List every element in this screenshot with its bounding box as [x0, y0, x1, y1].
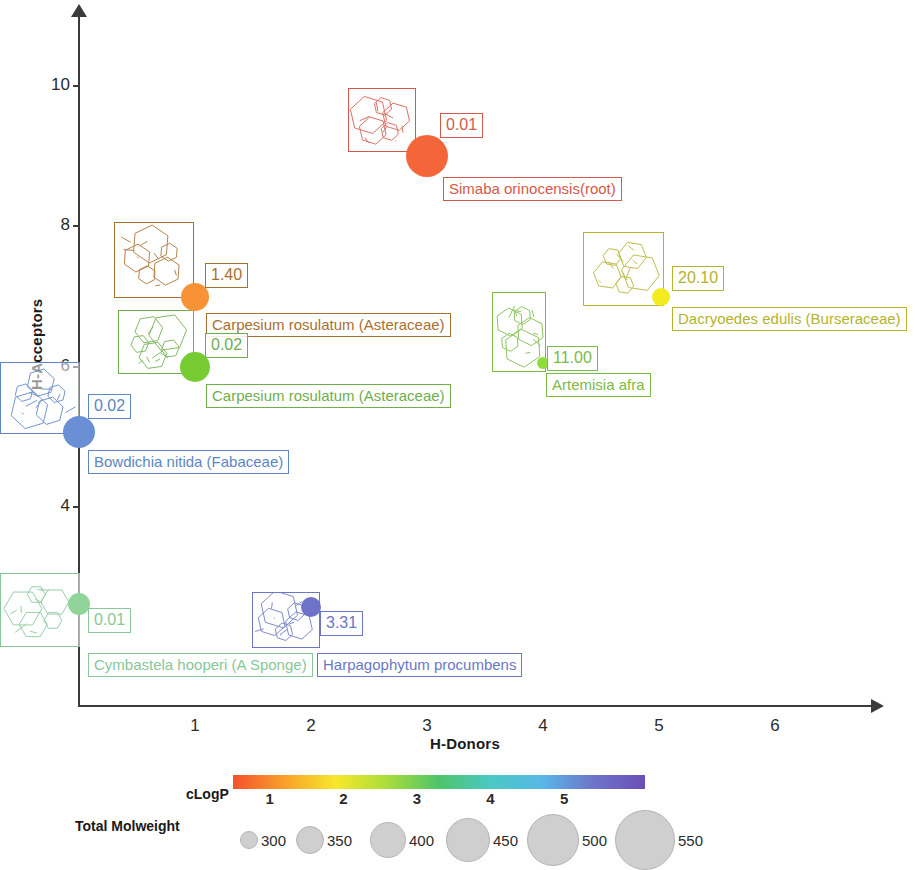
x-axis-title: H-Donors [430, 735, 500, 752]
point-name-label: Simaba orinocensis(root) [443, 177, 622, 201]
point-value-label: 1.40 [205, 263, 248, 288]
data-point-marker[interactable] [68, 593, 90, 615]
data-point-marker[interactable] [301, 597, 321, 617]
point-value-label: 3.31 [320, 611, 363, 636]
x-tick-label: 3 [407, 716, 447, 736]
y-tick-label: 8 [40, 215, 70, 235]
data-point-marker[interactable] [63, 416, 95, 448]
molecule-structure-thumbnail [348, 88, 416, 152]
size-legend-bubble [296, 826, 324, 854]
size-legend-label: 550 [678, 832, 703, 849]
y-tick-label: 4 [40, 496, 70, 516]
molecule-structure-thumbnail [114, 222, 194, 298]
y-axis-arrow [71, 4, 87, 17]
data-point-marker[interactable] [652, 288, 670, 306]
clogp-colorbar [233, 775, 645, 789]
x-axis-line [78, 705, 873, 707]
colorbar-tick-label: 5 [544, 790, 584, 807]
y-tick-label: 10 [40, 75, 70, 95]
size-legend-bubble [527, 814, 579, 866]
x-tick-label: 6 [755, 716, 795, 736]
size-legend-bubble [370, 822, 406, 858]
colorbar-tick-label: 3 [397, 790, 437, 807]
colorbar-tick-label: 4 [471, 790, 511, 807]
x-tick-label: 4 [523, 716, 563, 736]
size-legend-label: 350 [327, 832, 352, 849]
molecule-structure-thumbnail [0, 573, 80, 647]
x-tick-label: 1 [175, 716, 215, 736]
point-name-label: Harpagophytum procumbens [317, 653, 522, 677]
point-name-label: Artemisia afra [546, 373, 651, 397]
point-value-label: 0.01 [440, 113, 483, 138]
point-value-label: 20.10 [672, 266, 724, 291]
point-value-label: 0.02 [88, 394, 131, 419]
point-name-label: Carpesium rosulatum (Asteraceae) [206, 384, 451, 408]
colorbar-legend-title: cLogP [186, 786, 229, 802]
size-legend-label: 400 [409, 832, 434, 849]
y-tick-mark [73, 225, 79, 227]
point-name-label: Bowdichia nitida (Fabaceae) [88, 450, 289, 474]
data-point-marker[interactable] [406, 135, 448, 177]
y-tick-mark [73, 506, 79, 508]
size-legend-label: 300 [261, 832, 286, 849]
colorbar-tick-label: 2 [323, 790, 363, 807]
size-legend-bubble [240, 831, 258, 849]
point-name-label: Cymbastela hooperi (A Sponge) [88, 653, 313, 677]
point-value-label: 11.00 [547, 346, 598, 371]
point-value-label: 0.01 [88, 608, 131, 633]
x-tick-label: 2 [291, 716, 331, 736]
point-value-label: 0.02 [205, 333, 248, 358]
x-axis-arrow [871, 699, 884, 713]
size-legend-title: Total Molweight [75, 818, 180, 834]
size-legend-bubble [615, 810, 675, 870]
y-tick-mark [73, 85, 79, 87]
x-tick-label: 5 [639, 716, 679, 736]
colorbar-tick-label: 1 [250, 790, 290, 807]
size-legend-bubble [446, 818, 490, 862]
size-legend-label: 450 [493, 832, 518, 849]
size-legend-label: 500 [582, 832, 607, 849]
point-name-label: Dacryoedes edulis (Burseraceae) [672, 307, 907, 331]
